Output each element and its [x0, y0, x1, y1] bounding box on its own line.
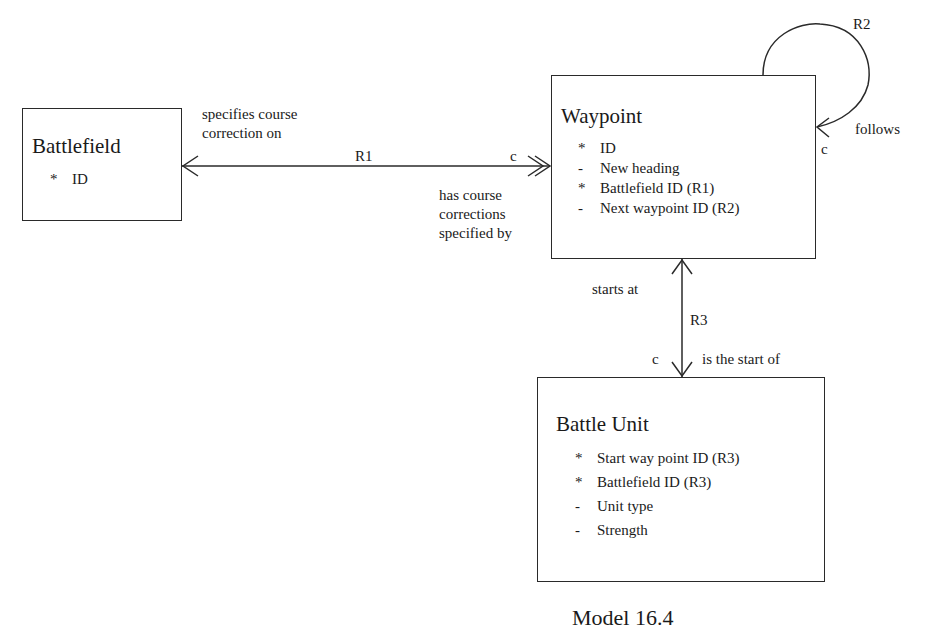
r3-top-phrase: starts at [592, 280, 638, 298]
r3-label: R3 [690, 311, 708, 329]
entity-waypoint: Waypoint *ID -New heading *Battlefield I… [551, 75, 816, 259]
attribute-row: *Start way point ID (R3) [575, 450, 739, 467]
r1-right-phrase-line3: specified by [439, 224, 512, 242]
figure-caption: Model 16.4 [572, 605, 673, 631]
identifier-marker: * [578, 140, 600, 157]
identifier-marker: * [578, 180, 600, 197]
r3-conditionality: c [652, 350, 659, 368]
r1-conditionality: c [510, 147, 517, 165]
entity-title: Battlefield [32, 134, 121, 159]
attribute-label: Next waypoint ID (R2) [600, 200, 740, 216]
attribute-row: -New heading [578, 160, 680, 177]
r2-conditionality: c [821, 140, 828, 158]
r2-arrow [817, 118, 829, 137]
r3-bottom-phrase: is the start of [702, 350, 780, 368]
entity-title: Battle Unit [556, 412, 649, 437]
attribute-label: Strength [597, 522, 648, 538]
r1-left-phrase-line1: specifies course [202, 105, 297, 123]
attribute-label: Start way point ID (R3) [597, 450, 739, 466]
attribute-row: *ID [578, 140, 616, 157]
attribute-label: Battlefield ID (R1) [600, 180, 714, 196]
attribute-marker: - [575, 498, 597, 515]
attribute-label: Battlefield ID (R3) [597, 474, 711, 490]
r2-phrase: follows [855, 120, 900, 138]
attribute-marker: - [575, 522, 597, 539]
attribute-row: -Unit type [575, 498, 653, 515]
attribute-row: *ID [50, 171, 88, 188]
entity-battlefield: Battlefield *ID [22, 108, 182, 221]
entity-title: Waypoint [561, 104, 642, 129]
attribute-marker: - [578, 160, 600, 177]
entity-battle-unit: Battle Unit *Start way point ID (R3) *Ba… [537, 377, 825, 582]
attribute-label: ID [600, 140, 616, 156]
attribute-row: -Strength [575, 522, 648, 539]
attribute-row: *Battlefield ID (R3) [575, 474, 711, 491]
identifier-marker: * [50, 171, 72, 188]
attribute-label: Unit type [597, 498, 653, 514]
r1-left-phrase-line2: correction on [202, 124, 282, 142]
attribute-label: New heading [600, 160, 680, 176]
attribute-row: *Battlefield ID (R1) [578, 180, 714, 197]
attribute-label: ID [72, 171, 88, 187]
r1-label: R1 [355, 147, 373, 165]
r1-right-phrase-line1: has course [439, 186, 502, 204]
identifier-marker: * [575, 474, 597, 491]
attribute-marker: - [578, 200, 600, 217]
attribute-row: -Next waypoint ID (R2) [578, 200, 740, 217]
identifier-marker: * [575, 450, 597, 467]
r2-label: R2 [853, 15, 871, 33]
r1-right-phrase-line2: corrections [439, 205, 506, 223]
